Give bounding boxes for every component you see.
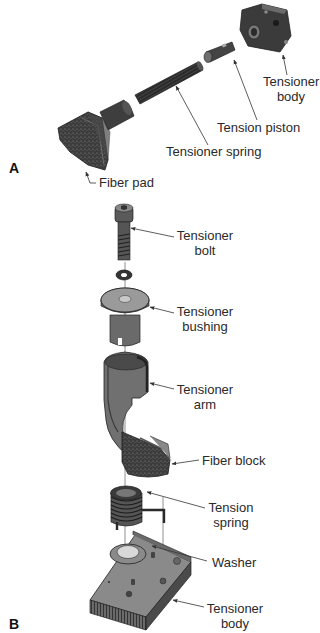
fiber-block-part [122,432,170,477]
label-fiber-block: Fiber block [202,453,266,468]
label-tensioner-body-a: Tensioner body [263,74,319,104]
label-tensioner-body-b: Tensioner body [204,601,266,631]
label-line: spring [206,515,256,530]
lock-washer-part [116,270,132,280]
exploded-view-diagram: Tensioner body Tension piston Tensioner … [0,0,320,633]
label-line: bushing [174,319,236,334]
tensioner-bolt-part [115,204,133,260]
label-tensioner-bushing: Tensioner bushing [174,304,236,334]
panel-letter-b: B [9,616,19,632]
tensioner-bushing-part [101,288,149,346]
tensioner-body-b-part [90,531,191,630]
label-washer: Washer [212,555,256,570]
label-tension-piston: Tension piston [217,120,300,135]
label-line: bolt [174,243,236,258]
tensioner-spring-a-part [135,60,205,104]
label-line: body [263,89,319,104]
fiber-pad-part [58,100,134,170]
label-tension-spring-b: Tension spring [206,500,256,530]
label-line: Tension [206,500,256,515]
label-line: Tensioner [204,601,266,616]
tension-spring-b-part [111,486,165,530]
label-line: arm [174,397,236,412]
panel-letter-a: A [9,160,19,176]
label-line: Tensioner [174,304,236,319]
label-line: Tensioner [174,228,236,243]
tensioner-body-a-part [240,4,291,52]
label-line: body [204,616,266,631]
label-tensioner-arm: Tensioner arm [174,382,236,412]
label-tensioner-spring-a: Tensioner spring [166,144,261,159]
label-tensioner-bolt: Tensioner bolt [174,228,236,258]
label-line: Tensioner [263,74,319,89]
panel-b-artwork [90,204,207,630]
label-fiber-pad: Fiber pad [99,175,154,190]
label-line: Tensioner [174,382,236,397]
tension-piston-part [204,42,235,63]
